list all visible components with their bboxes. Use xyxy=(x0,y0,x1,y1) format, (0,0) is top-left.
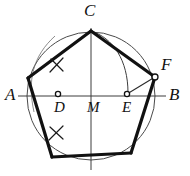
point-markers xyxy=(55,74,158,97)
construction-drawing xyxy=(0,0,190,176)
tick-mark-lower-left xyxy=(49,126,63,140)
point-label-c: C xyxy=(84,2,95,19)
pentagon-edge-f-c xyxy=(91,31,155,77)
point-label-f: F xyxy=(161,56,171,73)
point-marker-d xyxy=(55,91,60,96)
pentagon-edge-c-left xyxy=(28,31,91,78)
point-label-a: A xyxy=(5,86,15,103)
point-label-d: D xyxy=(54,100,65,115)
tick-mark-upper-left xyxy=(50,58,63,72)
point-label-m: M xyxy=(87,100,100,115)
point-marker-e xyxy=(124,91,129,96)
geometry-figure: A B C D E F M xyxy=(0,0,190,176)
point-label-b: B xyxy=(169,86,179,103)
pentagon-edge-bottomright-f xyxy=(131,77,155,153)
point-label-e: E xyxy=(122,100,131,115)
pentagon-edge-left-bottomleft xyxy=(28,78,52,157)
point-marker-f xyxy=(152,74,158,80)
